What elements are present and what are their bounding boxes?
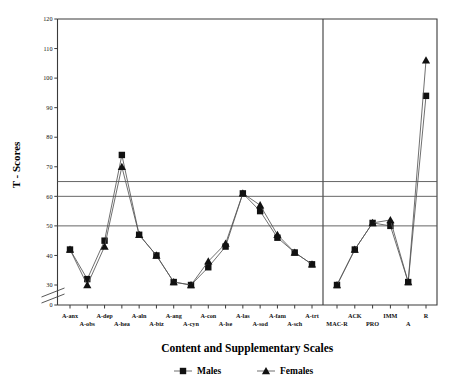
data-point-triangle xyxy=(386,216,394,223)
x-tick-label: ACK xyxy=(348,312,362,319)
legend-label: Females xyxy=(280,366,314,376)
x-tick-label: A-lse xyxy=(219,320,233,327)
chart-frame xyxy=(58,19,438,305)
x-tick-label: A-anx xyxy=(62,312,79,319)
x-tick-label: A-dep xyxy=(96,312,113,319)
y-axis-break xyxy=(42,288,65,303)
x-tick-label: A-fam xyxy=(269,312,287,319)
x-tick-label: PRO xyxy=(366,320,379,327)
y-tick-label: 0 xyxy=(49,301,52,308)
legend-marker-square xyxy=(180,368,186,374)
data-point-triangle xyxy=(221,240,229,247)
x-tick-label: A-las xyxy=(236,312,250,319)
y-tick-label: 110 xyxy=(43,45,52,52)
reference-lines xyxy=(58,182,438,226)
x-tick-label: A xyxy=(406,320,411,327)
y-tick-label: 100 xyxy=(43,74,52,81)
series-line-content xyxy=(70,155,312,285)
series-line-supplementary xyxy=(337,60,426,285)
y-tick-label: 30 xyxy=(46,281,52,288)
y-tick-label: 50 xyxy=(46,222,52,229)
chart-figure: 030405060708090100110120A-anxA-obsA-depA… xyxy=(0,0,450,388)
x-tick-label: A-sch xyxy=(287,320,303,327)
chart-canvas: 030405060708090100110120A-anxA-obsA-depA… xyxy=(0,0,450,388)
x-tick-label: A-hea xyxy=(114,320,130,327)
legend-marker-triangle xyxy=(262,367,270,374)
axis-titles: Content and Supplementary ScalesT - Scor… xyxy=(10,141,334,355)
y-tick-label: 90 xyxy=(46,104,52,111)
data-point-triangle xyxy=(256,201,264,208)
x-tick-label: MAC-R xyxy=(326,320,348,327)
x-tick-label: R xyxy=(424,312,429,319)
x-tick-label: IMM xyxy=(383,312,397,319)
x-tick-label: A-aln xyxy=(132,312,147,319)
series-females xyxy=(66,56,430,288)
x-tick-label: A-trt xyxy=(305,312,319,319)
data-point-triangle xyxy=(422,56,430,63)
x-tick-label: A-cyn xyxy=(183,320,199,327)
x-tick-label: A-obs xyxy=(80,320,96,327)
y-tick-label: 120 xyxy=(43,15,52,22)
x-tick-label: A-ang xyxy=(166,312,183,319)
data-point-triangle xyxy=(273,231,281,238)
y-tick-label: 60 xyxy=(46,193,52,200)
x-tick-label: A-sod xyxy=(252,320,268,327)
x-axis-title: Content and Supplementary Scales xyxy=(161,342,334,355)
y-tick-label: 80 xyxy=(46,133,52,140)
x-axis-ticks: A-anxA-obsA-depA-heaA-alnA-bizA-angA-cyn… xyxy=(62,305,429,327)
x-tick-label: A-con xyxy=(200,312,216,319)
series-line-supplementary xyxy=(337,96,426,285)
x-tick-label: A-biz xyxy=(149,320,164,327)
y-tick-label: 40 xyxy=(46,252,52,259)
plot-frame xyxy=(58,19,438,305)
y-tick-label: 70 xyxy=(46,163,52,170)
y-axis-title: T - Scores xyxy=(10,141,22,188)
data-point-square xyxy=(423,93,429,99)
data-point-square xyxy=(119,152,125,158)
series-males xyxy=(67,93,429,289)
y-axis-ticks: 030405060708090100110120 xyxy=(43,15,57,308)
chart-legend: MalesFemales xyxy=(174,366,314,376)
legend-label: Males xyxy=(197,366,222,376)
